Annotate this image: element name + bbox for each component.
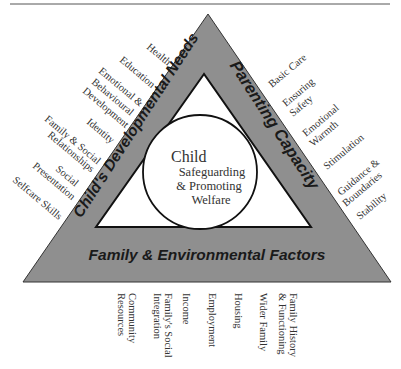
bottom-item: Income: [181, 293, 192, 325]
bottom-item: Employment: [207, 293, 218, 347]
bottom-item: Community: [127, 293, 138, 344]
assessment-triangle-diagram: Child's Developmental Needs Parenting Ca…: [0, 0, 401, 369]
bottom-item: Resources: [116, 293, 127, 336]
center-line: Safeguarding: [179, 165, 246, 179]
center-title: Child: [171, 148, 207, 165]
side-label-bottom: Family & Environmental Factors: [89, 246, 326, 263]
bottom-item: Family's Social: [163, 293, 174, 358]
center-line: Welfare: [191, 193, 231, 207]
left-item: Identity: [85, 116, 118, 146]
bottom-item: Integration: [152, 293, 163, 340]
bottom-item: Wider Family: [258, 293, 269, 352]
center-line: & Promoting: [176, 179, 242, 193]
bottom-item: & Functioning: [277, 293, 288, 355]
bottom-item: Family History: [288, 293, 299, 358]
bottom-item: Housing: [233, 293, 244, 329]
right-item: Stimulation: [321, 131, 366, 171]
